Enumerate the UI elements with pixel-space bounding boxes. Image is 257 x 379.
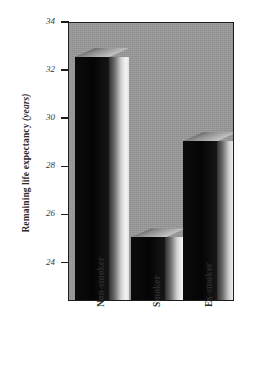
bar-top-face	[183, 132, 234, 141]
bar-side-face	[165, 237, 185, 300]
y-axis-tick-label: 26	[15, 209, 55, 218]
bar-chart-figure: Remaining life expectancy (years) 343230…	[0, 0, 257, 379]
y-axis-tick-label: 34	[15, 17, 55, 26]
bar-side-face	[217, 141, 234, 300]
y-axis-tick-label: 30	[15, 113, 55, 122]
x-axis-label-ex-smoker: Ex-smoker	[204, 263, 214, 307]
y-axis-tick-label: 32	[15, 65, 55, 74]
x-axis-label-smoker: Smoker	[152, 275, 162, 307]
bar-side-face	[109, 57, 129, 300]
y-axis-tick-label: 24	[15, 258, 55, 267]
bar-top-face	[75, 48, 129, 57]
x-axis-label-non-smoker: Non-smoker	[96, 257, 106, 307]
y-axis-tick-label: 28	[15, 161, 55, 170]
bar-top-face	[131, 228, 185, 237]
plot-area	[68, 22, 234, 301]
